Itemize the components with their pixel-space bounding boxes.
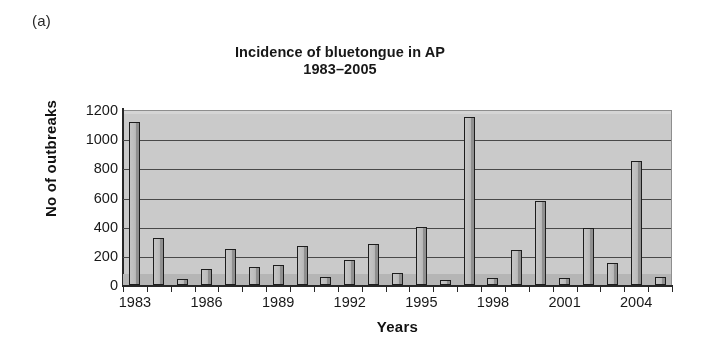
- x-tick-12: [409, 285, 410, 292]
- bar-2003: [607, 263, 618, 285]
- x-tick-11: [386, 285, 387, 292]
- x-tick-label-1989: 1989: [262, 294, 294, 310]
- x-tick-6: [266, 285, 267, 292]
- x-tick-label-1992: 1992: [334, 294, 366, 310]
- x-tick-10: [362, 285, 363, 292]
- bar-1991: [320, 277, 331, 285]
- x-tick-8: [314, 285, 315, 292]
- y-tick-label-200: 200: [94, 249, 118, 263]
- bar-1997: [464, 117, 475, 285]
- y-tick-label-800: 800: [94, 161, 118, 175]
- x-tick-label-1995: 1995: [405, 294, 437, 310]
- y-tick-label-0: 0: [110, 278, 118, 292]
- y-axis-title: No of outbreaks: [42, 64, 59, 254]
- x-tick-20: [600, 285, 601, 292]
- y-tick-label-1000: 1000: [86, 132, 118, 146]
- bar-1983: [129, 122, 140, 285]
- x-tick-19: [577, 285, 578, 292]
- x-tick-2: [171, 285, 172, 292]
- x-tick-label-1998: 1998: [477, 294, 509, 310]
- bar-1998: [487, 278, 498, 285]
- bar-1988: [249, 267, 260, 285]
- bar-1986: [201, 269, 212, 285]
- bar-1995: [416, 227, 427, 285]
- x-tick-9: [338, 285, 339, 292]
- plot-wrapper: 120010008006004002000 198319861989199219…: [0, 0, 707, 358]
- x-axis-ticks: [123, 285, 674, 293]
- bar-2004: [631, 161, 642, 285]
- bar-2002: [583, 228, 594, 285]
- bar-1993: [368, 244, 379, 285]
- x-axis-title: Years: [123, 318, 672, 335]
- figure-panel-a: (a) Incidence of bluetongue in AP 1983–2…: [0, 0, 707, 358]
- x-tick-7: [290, 285, 291, 292]
- x-tick-4: [218, 285, 219, 292]
- x-tick-16: [505, 285, 506, 292]
- x-tick-label-1983: 1983: [119, 294, 151, 310]
- x-tick-label-2004: 2004: [620, 294, 652, 310]
- x-tick-13: [433, 285, 434, 292]
- bar-1989: [273, 265, 284, 285]
- bar-2001: [559, 278, 570, 285]
- bar-1990: [297, 246, 308, 285]
- bar-2000: [535, 201, 546, 285]
- bar-1992: [344, 260, 355, 285]
- x-tick-14: [457, 285, 458, 292]
- x-tick-label-2001: 2001: [548, 294, 580, 310]
- y-tick-label-1200: 1200: [86, 103, 118, 117]
- x-tick-17: [529, 285, 530, 292]
- x-tick-label-1986: 1986: [190, 294, 222, 310]
- bar-2005: [655, 277, 666, 285]
- x-tick-1: [147, 285, 148, 292]
- x-tick-18: [553, 285, 554, 292]
- bar-1996: [440, 280, 451, 285]
- bar-1999: [511, 250, 522, 285]
- y-tick-label-400: 400: [94, 220, 118, 234]
- x-tick-15: [481, 285, 482, 292]
- x-tick-21: [624, 285, 625, 292]
- y-tick-label-600: 600: [94, 191, 118, 205]
- bar-1985: [177, 279, 188, 285]
- x-tick-5: [242, 285, 243, 292]
- x-tick-0: [123, 285, 124, 292]
- x-tick-22: [648, 285, 649, 292]
- y-axis-tick-labels: 120010008006004002000: [58, 100, 118, 295]
- x-axis-tick-labels: 19831986198919921995199820012004: [123, 294, 674, 316]
- x-tick-3: [195, 285, 196, 292]
- bar-series: [123, 110, 672, 285]
- bar-1984: [153, 238, 164, 285]
- bar-1987: [225, 249, 236, 285]
- bar-1994: [392, 273, 403, 285]
- x-tick-23: [672, 285, 673, 292]
